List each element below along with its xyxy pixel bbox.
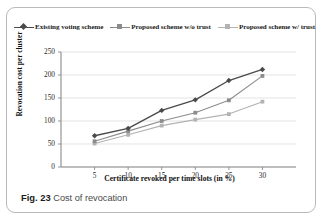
x-tick-label: 20: [183, 171, 207, 180]
data-point-marker: [227, 112, 231, 116]
data-point-marker: [260, 67, 265, 72]
series-line-0: [95, 69, 263, 135]
data-point-marker: [193, 118, 197, 122]
y-tick-label: 150: [33, 93, 55, 102]
y-tick-label: 50: [33, 139, 55, 148]
chart-figure: Existing voting scheme Proposed scheme w…: [7, 8, 317, 190]
y-tick-label: 200: [33, 70, 55, 79]
y-tick-label: 0: [33, 162, 55, 171]
x-tick-label: 15: [150, 171, 174, 180]
caption-text: Cost of revocation: [51, 193, 128, 203]
data-point-marker: [193, 111, 197, 115]
data-point-marker: [92, 133, 97, 138]
data-point-marker: [160, 124, 164, 128]
caption-figure-number: Fig. 23: [21, 192, 51, 203]
y-tick-label: 250: [33, 47, 55, 56]
data-point-marker: [159, 108, 164, 113]
x-tick-label: 10: [116, 171, 140, 180]
figure-caption: Fig. 23 Cost of revocation: [21, 192, 306, 203]
figure-card: Existing voting scheme Proposed scheme w…: [6, 7, 316, 213]
x-tick-label: 5: [83, 171, 107, 180]
y-tick-label: 100: [33, 116, 55, 125]
data-series-layer: [92, 67, 265, 146]
plot-area: Revocation cost per cluster Certificate …: [7, 8, 317, 190]
data-point-marker: [160, 119, 164, 123]
series-line-2: [95, 102, 263, 144]
data-point-marker: [93, 139, 97, 143]
x-tick-label: 25: [217, 171, 241, 180]
y-axis-title: Revocation cost per cluster: [15, 24, 27, 124]
data-point-marker: [226, 78, 231, 83]
data-point-marker: [227, 98, 231, 102]
data-point-marker: [261, 100, 265, 104]
series-line-1: [95, 76, 263, 141]
data-point-marker: [261, 74, 265, 78]
x-tick-label: 30: [250, 171, 274, 180]
data-point-marker: [126, 133, 130, 137]
